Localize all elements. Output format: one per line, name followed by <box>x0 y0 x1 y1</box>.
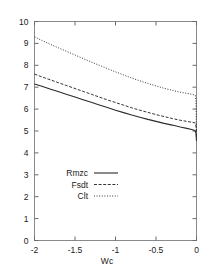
plot-frame <box>35 22 197 241</box>
y-tick-label: 7 <box>24 82 29 92</box>
y-tick-label: 1 <box>24 214 29 224</box>
x-axis-ticks: -2-1.5-1-0.50 <box>31 22 199 255</box>
curve-clt <box>35 37 197 130</box>
y-tick-label: 3 <box>24 170 29 180</box>
y-tick-label: 8 <box>24 60 29 70</box>
plot-area: -2-1.5-1-0.50 012345678910 RmzcFsdtClt W… <box>0 0 213 270</box>
x-tick-label: 0 <box>194 245 199 255</box>
curve-rmzc <box>35 84 197 141</box>
y-tick-label: 4 <box>24 148 29 158</box>
x-tick-label: -1 <box>112 245 120 255</box>
legend-label-fsdt: Fsdt <box>71 180 88 190</box>
x-tick-label: -1.5 <box>68 245 83 255</box>
y-tick-label: 9 <box>24 38 29 48</box>
x-axis-title: Wc <box>101 256 114 266</box>
y-tick-label: 2 <box>24 192 29 202</box>
x-tick-label: -2 <box>31 245 39 255</box>
y-tick-label: 0 <box>24 236 29 246</box>
y-tick-label: 10 <box>19 17 29 27</box>
chart-figure: -2-1.5-1-0.50 012345678910 RmzcFsdtClt W… <box>0 0 213 270</box>
y-tick-label: 6 <box>24 104 29 114</box>
y-tick-label: 5 <box>24 126 29 136</box>
data-curves <box>35 37 197 141</box>
legend-label-clt: Clt <box>78 191 89 201</box>
y-axis-ticks: 012345678910 <box>19 17 196 246</box>
legend-label-rmzc: Rmzc <box>66 168 88 178</box>
curve-fsdt <box>35 74 197 137</box>
x-tick-label: -0.5 <box>149 245 164 255</box>
chart-legend: RmzcFsdtClt <box>66 168 118 201</box>
